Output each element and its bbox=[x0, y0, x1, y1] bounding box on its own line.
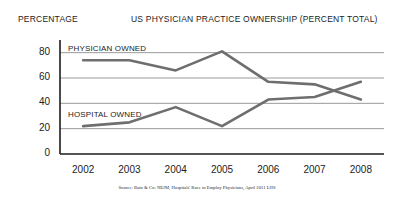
y-axis-title: PERCENTAGE bbox=[18, 14, 78, 24]
y-tick-label: 80 bbox=[24, 46, 50, 57]
series-line-2 bbox=[83, 82, 361, 126]
y-tick-label: 40 bbox=[24, 96, 50, 107]
page-title: US PHYSICIAN PRACTICE OWNERSHIP (PERCENT… bbox=[131, 14, 378, 24]
source-note: Source: Bain & Co; NEJM, Hospitals' Race… bbox=[0, 185, 394, 190]
line-chart-svg bbox=[0, 30, 394, 170]
x-tick-label: 2006 bbox=[246, 164, 290, 175]
x-tick-label: 2003 bbox=[107, 164, 151, 175]
x-tick-label: 2002 bbox=[61, 164, 105, 175]
plot-area: 020406080 2002200320042005200620072008 P… bbox=[0, 30, 394, 170]
x-tick-label: 2008 bbox=[339, 164, 383, 175]
x-tick-label: 2007 bbox=[293, 164, 337, 175]
axes-group bbox=[60, 40, 384, 154]
y-tick-label: 0 bbox=[24, 147, 50, 158]
series-label-2: HOSPITAL OWNED bbox=[68, 110, 142, 119]
chart-figure: PERCENTAGE US PHYSICIAN PRACTICE OWNERSH… bbox=[0, 0, 394, 200]
y-tick-label: 60 bbox=[24, 71, 50, 82]
series-line-1 bbox=[83, 51, 361, 99]
x-tick-label: 2005 bbox=[200, 164, 244, 175]
y-tick-label: 20 bbox=[24, 122, 50, 133]
x-tick-label: 2004 bbox=[154, 164, 198, 175]
series-label-1: PHYSICIAN OWNED bbox=[68, 44, 146, 53]
